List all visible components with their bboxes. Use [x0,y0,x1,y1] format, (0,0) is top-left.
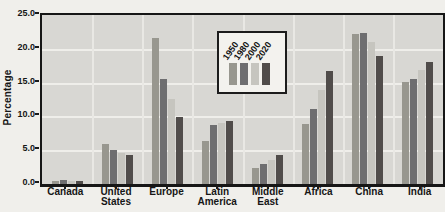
legend-swatch [262,63,270,85]
bar-2020 [376,56,383,184]
x-tick-mark [317,185,319,189]
bar-1950 [202,141,209,184]
bar-2000 [318,90,325,184]
bar-2000 [368,42,375,184]
bar-1980 [110,150,117,184]
y-axis-tick-labels: 25.020.015.010.05.00.0 [6,0,35,212]
bar-1950 [102,144,109,184]
y-tick-mark [35,181,39,183]
bar-1950 [402,82,409,184]
x-category-label: UnitedStates [91,187,142,207]
y-tick-mark [35,147,39,149]
x-category-label: Africa [293,187,344,207]
bar-2000 [118,153,125,184]
y-tick-mark [35,80,39,82]
bar-2000 [418,70,425,184]
y-tick-label: 20.0 [6,42,35,52]
bar-1950 [52,181,59,184]
y-tick-label: 0.0 [6,177,35,187]
legend-item-2000: 2000 [251,63,259,85]
legend-item-1980: 1980 [240,63,248,85]
y-tick-mark [35,46,39,48]
bar-group-africa [293,15,343,184]
x-category-label: Europe [141,187,192,207]
y-tick-label: 5.0 [6,143,35,153]
bar-1980 [210,125,217,184]
y-tick-label: 15.0 [6,76,35,86]
bar-1950 [252,168,259,184]
plot-area: 1950198020002020 [40,13,445,187]
bar-group-china [343,15,393,184]
bar-2020 [326,71,333,184]
x-tick-mark [419,185,421,189]
legend: 1950198020002020 [217,31,287,94]
legend-swatch [229,63,237,85]
y-tick-label: 10.0 [6,109,35,119]
bar-2020 [76,181,83,184]
bar-1980 [60,180,67,184]
bar-2020 [276,155,283,184]
bar-1950 [152,38,159,184]
bar-1980 [360,33,367,184]
x-category-label: MiddleEast [243,187,294,207]
x-tick-mark [368,185,370,189]
bar-1980 [160,79,167,184]
bar-group-united-states [92,15,142,184]
bar-1950 [302,124,309,184]
legend-items: 1950198020002020 [229,63,270,85]
x-axis-category-labels: CanadaUnitedStatesEuropeLatinAmericaMidd… [40,187,445,207]
y-tick-mark [35,12,39,14]
x-category-label: China [344,187,395,207]
bar-1980 [260,164,267,184]
bar-1950 [352,34,359,184]
bar-2000 [218,123,225,184]
legend-swatch [240,63,248,85]
x-category-label: Canada [40,187,91,207]
x-tick-mark [267,185,269,189]
x-category-label: LatinAmerica [192,187,243,207]
y-tick-label: 25.0 [6,8,35,18]
bar-group-canada [42,15,92,184]
x-tick-mark [64,185,66,189]
legend-swatch [251,63,259,85]
legend-item-2020: 2020 [262,63,270,85]
bar-1980 [410,79,417,184]
x-category-label: India [394,187,445,207]
x-tick-mark [115,185,117,189]
bar-group-europe [142,15,192,184]
bar-2000 [68,181,75,184]
bar-1980 [310,109,317,184]
x-tick-mark [166,185,168,189]
chart: Percentage 25.020.015.010.05.00.0 195019… [0,0,445,212]
bar-group-india [393,15,443,184]
legend-item-1950: 1950 [229,63,237,85]
bar-2020 [176,117,183,184]
bar-2000 [168,99,175,184]
bar-2020 [226,121,233,184]
bar-2020 [126,155,133,184]
bar-2020 [426,62,433,184]
y-tick-mark [35,113,39,115]
bar-2000 [268,160,275,184]
x-tick-mark [216,185,218,189]
